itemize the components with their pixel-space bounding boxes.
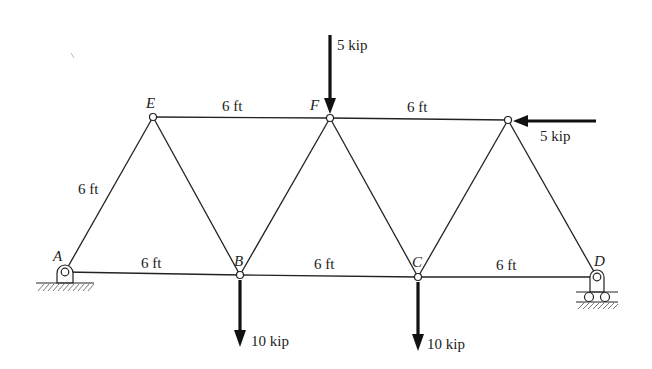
dimension-BC: 6 ft — [314, 256, 335, 272]
joint-label-D: D — [593, 253, 605, 269]
member-FG — [330, 118, 508, 120]
load-label-C: 10 kip — [427, 336, 465, 352]
joint-label-F: F — [309, 97, 320, 113]
member-FC — [330, 118, 418, 277]
joint-label-A: A — [52, 248, 63, 264]
load-arrow-F — [324, 35, 336, 114]
joint-D — [593, 273, 601, 281]
joint-C — [415, 274, 422, 281]
dimension-AE: 6 ft — [78, 181, 99, 197]
load-arrow-B — [234, 280, 246, 347]
joint-label-B: B — [234, 253, 243, 269]
member-EB — [153, 117, 240, 275]
member-CG — [418, 120, 508, 277]
member-BF — [240, 118, 330, 275]
members — [65, 117, 597, 277]
scan-mark — [71, 53, 74, 58]
load-label-G: 5 kip — [540, 128, 570, 144]
dimension-FG: 6 ft — [407, 99, 428, 115]
load-label-B: 10 kip — [251, 333, 289, 349]
load-arrow-G — [513, 115, 596, 127]
joint-A — [61, 268, 69, 276]
dimension-AB: 6 ft — [141, 255, 162, 271]
truss-diagram: A B C D E F 6 ft 6 ft 6 ft 6 ft 6 ft 6 f… — [0, 0, 652, 369]
joint-label-E: E — [145, 95, 155, 111]
joint-E — [150, 114, 157, 121]
joint-G — [505, 117, 512, 124]
joint-F — [327, 115, 334, 122]
load-label-F: 5 kip — [337, 37, 367, 53]
member-AB — [65, 272, 240, 275]
joint-B — [237, 272, 244, 279]
dimension-CD: 6 ft — [496, 257, 517, 273]
joint-label-C: C — [412, 254, 423, 270]
member-EF — [153, 117, 330, 118]
member-BC — [240, 275, 418, 277]
load-arrow-C — [412, 282, 424, 351]
dimension-EF: 6 ft — [222, 98, 243, 114]
